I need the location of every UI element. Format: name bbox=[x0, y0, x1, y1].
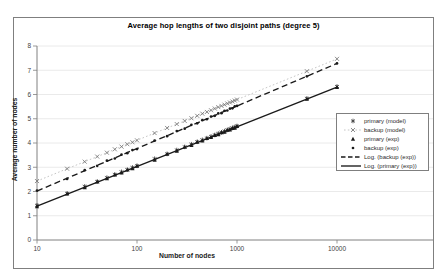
line-backup-model- bbox=[37, 59, 337, 181]
y-tick-labels: 012345678 bbox=[27, 42, 31, 243]
legend-label: backup (model) bbox=[364, 127, 405, 133]
svg-text:1: 1 bbox=[27, 212, 31, 219]
x-dotted-icon bbox=[340, 126, 362, 134]
svg-text:10: 10 bbox=[33, 245, 41, 252]
trendline-backup-exp bbox=[37, 63, 337, 191]
dashed-line-icon bbox=[340, 153, 362, 161]
svg-text:100: 100 bbox=[132, 245, 143, 252]
legend-item--og-primary-exp-: Log. (primary (exp)) bbox=[340, 161, 428, 170]
svg-text:4: 4 bbox=[27, 139, 31, 146]
svg-text:10000: 10000 bbox=[328, 245, 346, 252]
x-axis-title: Number of nodes bbox=[37, 252, 337, 259]
triangle-icon bbox=[340, 135, 362, 143]
legend-item-backup-exp-: backup (exp) bbox=[340, 143, 428, 152]
svg-text:6: 6 bbox=[27, 91, 31, 98]
x-tick-labels: 10100100010000 bbox=[33, 245, 346, 252]
legend-label: primary (exp) bbox=[364, 136, 399, 142]
legend-item-backup-model-: backup (model) bbox=[340, 125, 428, 134]
svg-text:1000: 1000 bbox=[230, 245, 245, 252]
legend-item-primary-exp-: primary (exp) bbox=[340, 134, 428, 143]
svg-text:5: 5 bbox=[27, 115, 31, 122]
solid-line-icon bbox=[340, 162, 362, 170]
svg-text:8: 8 bbox=[27, 42, 31, 49]
chart-figure: 01234567810100100010000 Average hop leng… bbox=[0, 0, 439, 279]
legend-label: Log. (backup (exp)) bbox=[364, 154, 416, 160]
svg-text:0: 0 bbox=[27, 236, 31, 243]
legend-item--og-backup-exp-: Log. (backup (exp)) bbox=[340, 152, 428, 161]
series-backup-model- bbox=[35, 57, 339, 183]
legend-item-primary-model-: primary (model) bbox=[340, 116, 428, 125]
chart-title: Average hop lengths of two disjoint path… bbox=[13, 21, 434, 30]
asterisk-icon bbox=[340, 117, 362, 125]
trendline-primary-exp bbox=[37, 87, 337, 206]
legend-box: primary (model)backup (model)primary (ex… bbox=[336, 113, 429, 171]
svg-text:3: 3 bbox=[27, 164, 31, 171]
legend-label: Log. (primary (exp)) bbox=[364, 163, 417, 169]
dot-icon bbox=[340, 144, 362, 152]
y-axis-title: Average number of nodes bbox=[11, 50, 18, 230]
svg-text:2: 2 bbox=[27, 188, 31, 195]
svg-text:7: 7 bbox=[27, 67, 31, 74]
legend-label: backup (exp) bbox=[364, 145, 399, 151]
legend-label: primary (model) bbox=[364, 118, 406, 124]
